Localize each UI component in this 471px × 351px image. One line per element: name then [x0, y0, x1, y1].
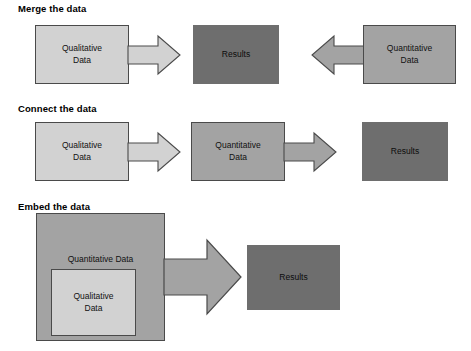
- merge-results-box: Results: [193, 25, 279, 84]
- merge-results-label: Results: [219, 49, 253, 60]
- quantitative-line-2: Data: [229, 152, 247, 162]
- quantitative-line-1: Quantitative: [387, 43, 432, 53]
- qualitative-line-1: Qualitative: [73, 291, 113, 301]
- connect-quantitative-label: Quantitative Data: [212, 140, 263, 162]
- section-heading-merge: Merge the data: [18, 3, 86, 14]
- quantitative-line-2: Data: [401, 55, 419, 65]
- connect-results-label: Results: [388, 146, 422, 157]
- embed-arrow-right-icon: [164, 237, 242, 317]
- merge-arrow-right-icon: [128, 34, 181, 76]
- connect-quantitative-box: Quantitative Data: [191, 122, 285, 181]
- merge-qualitative-label: Qualitative Data: [59, 43, 105, 65]
- merge-quantitative-box: Quantitative Data: [363, 25, 456, 84]
- qualitative-line-1: Qualitative: [62, 140, 102, 150]
- embed-qualitative-label: Qualitative Data: [70, 291, 116, 313]
- embed-results-label: Results: [276, 272, 310, 283]
- section-heading-embed: Embed the data: [18, 201, 90, 212]
- quantitative-line-1: Quantitative: [215, 140, 260, 150]
- merge-quantitative-label: Quantitative Data: [384, 43, 435, 65]
- section-heading-connect: Connect the data: [18, 103, 97, 114]
- embed-qualitative-box: Qualitative Data: [51, 269, 136, 336]
- qualitative-line-2: Data: [73, 55, 91, 65]
- connect-qualitative-box: Qualitative Data: [35, 122, 129, 181]
- qualitative-line-2: Data: [73, 152, 91, 162]
- merge-arrow-left-icon: [311, 34, 364, 76]
- qualitative-line-2: Data: [85, 303, 103, 313]
- connect-qualitative-label: Qualitative Data: [59, 140, 105, 162]
- merge-qualitative-box: Qualitative Data: [35, 25, 129, 84]
- embed-quantitative-box: Quantitative Data Qualitative Data: [36, 213, 165, 341]
- connect-arrow-2-icon: [284, 131, 337, 173]
- qualitative-line-1: Qualitative: [62, 43, 102, 53]
- connect-arrow-1-icon: [128, 131, 181, 173]
- diagram-canvas: Merge the data Qualitative Data Results …: [0, 0, 471, 351]
- embed-quantitative-label: Quantitative Data: [37, 254, 164, 265]
- embed-results-box: Results: [247, 245, 340, 310]
- connect-results-box: Results: [362, 122, 448, 181]
